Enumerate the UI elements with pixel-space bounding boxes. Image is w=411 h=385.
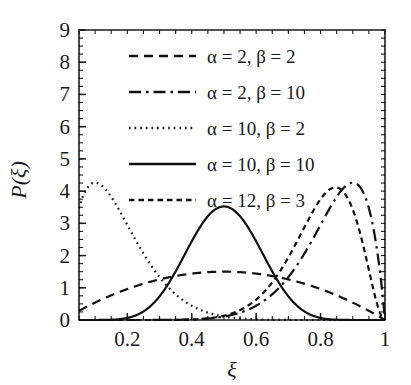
y-axis-tick-labels: 0123456789 <box>60 18 71 332</box>
x-axis-tick-labels: 0.20.40.60.81 <box>114 327 390 351</box>
y-tick-label: 8 <box>60 50 71 74</box>
y-tick-label: 0 <box>60 308 71 332</box>
x-tick-label: 1 <box>380 327 391 351</box>
y-axis-title: P(ξ) <box>6 161 31 200</box>
chart-canvas: 0123456789 0.20.40.60.81 α = 2, β = 2α =… <box>0 0 411 385</box>
y-tick-label: 4 <box>60 179 71 203</box>
y-tick-label: 7 <box>60 82 71 106</box>
y-tick-label: 2 <box>60 244 71 268</box>
y-tick-label: 9 <box>60 18 71 42</box>
y-tick-label: 3 <box>60 211 71 235</box>
y-tick-label: 5 <box>60 147 71 171</box>
legend-label: α = 2, β = 2 <box>207 46 296 67</box>
curve-10-10 <box>79 206 385 320</box>
legend-label: α = 10, β = 10 <box>207 154 315 175</box>
beta-distribution-figure: 0123456789 0.20.40.60.81 α = 2, β = 2α =… <box>0 0 411 385</box>
x-tick-label: 0.4 <box>179 327 206 351</box>
legend-label: α = 12, β = 3 <box>207 190 305 211</box>
x-axis-title: ξ <box>227 357 237 382</box>
legend-label: α = 2, β = 10 <box>207 82 305 103</box>
x-axis-minor-ticks <box>79 30 385 320</box>
plot-frame <box>79 30 385 320</box>
y-tick-label: 6 <box>60 115 71 139</box>
x-tick-label: 0.6 <box>243 327 269 351</box>
y-tick-label: 1 <box>60 276 71 300</box>
y-axis-minor-ticks <box>79 30 385 320</box>
legend-label: α = 10, β = 2 <box>207 118 305 139</box>
legend: α = 2, β = 2α = 2, β = 10α = 10, β = 2α … <box>129 46 315 211</box>
x-tick-label: 0.8 <box>307 327 333 351</box>
x-tick-label: 0.2 <box>114 327 140 351</box>
